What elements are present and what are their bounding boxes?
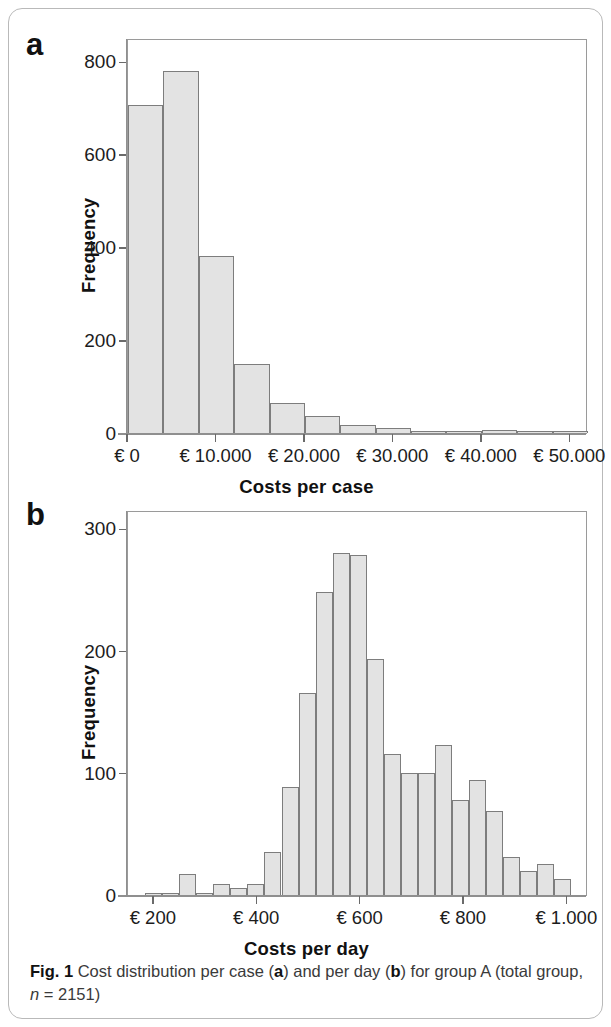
histogram-bar <box>486 811 503 895</box>
x-axis-tick <box>152 896 153 904</box>
y-axis-tick-label: 100 <box>84 763 116 785</box>
x-axis-tick-label: € 40.000 <box>445 445 517 467</box>
histogram-bar <box>340 425 375 433</box>
x-axis-line <box>118 433 586 434</box>
caption-n-symbol: n <box>30 985 39 1003</box>
y-axis-tick <box>119 773 126 774</box>
histogram-bar <box>520 871 537 895</box>
caption-text-2: ) and per day ( <box>283 962 390 980</box>
x-axis-tick-label: € 50.000 <box>533 445 605 467</box>
y-axis-tick-label: 200 <box>84 641 116 663</box>
histogram-bar <box>213 884 230 895</box>
histogram-bar <box>435 745 452 895</box>
x-axis-tick <box>480 434 481 442</box>
histogram-bar <box>163 71 198 433</box>
x-axis-tick <box>392 434 393 442</box>
histogram-bar <box>503 857 520 895</box>
panel-b-plot-area <box>127 511 587 896</box>
histogram-bar <box>282 787 299 895</box>
caption-ref-b: b <box>390 962 400 980</box>
x-axis-tick <box>303 434 304 442</box>
caption-figure-number: Fig. 1 <box>30 962 73 980</box>
x-axis-tick-label: € 600 <box>336 907 382 929</box>
panel-a-letter: a <box>26 29 43 60</box>
y-axis-tick <box>119 62 126 63</box>
y-axis-tick-label: 800 <box>84 51 116 73</box>
x-axis-tick <box>569 434 570 442</box>
x-axis-tick-label: € 20.000 <box>268 445 340 467</box>
caption-ref-a: a <box>274 962 283 980</box>
figure-frame: a Frequency 0200400600800 € 0€ 10.000€ 2… <box>8 8 603 1019</box>
histogram-bar <box>452 800 469 895</box>
panel-b-letter: b <box>26 499 44 530</box>
histogram-bar <box>234 364 269 433</box>
y-axis-tick <box>119 247 126 248</box>
y-axis-tick-label: 400 <box>84 237 116 259</box>
histogram-bar <box>376 428 411 433</box>
histogram-bar <box>316 592 333 895</box>
y-axis-line <box>126 39 127 434</box>
x-axis-tick <box>126 434 127 442</box>
histogram-bar <box>299 693 316 895</box>
histogram-bar <box>418 773 435 895</box>
panel-a-bars <box>128 40 586 433</box>
x-axis-tick-label: € 200 <box>130 907 176 929</box>
histogram-bar <box>305 416 340 433</box>
y-axis-tick-label: 0 <box>105 423 116 445</box>
y-axis-tick-label: 300 <box>84 518 116 540</box>
x-axis-tick-label: € 1.000 <box>535 907 597 929</box>
histogram-bar <box>128 105 163 433</box>
histogram-bar <box>247 884 264 895</box>
caption-text-1: Cost distribution per case ( <box>73 962 274 980</box>
x-axis-tick <box>359 896 360 904</box>
panel-a-plot-area <box>127 39 587 434</box>
x-axis-tick <box>566 896 567 904</box>
x-axis-tick-label: € 30.000 <box>356 445 428 467</box>
y-axis-tick-label: 600 <box>84 144 116 166</box>
panel-b: b Frequency 0100200300 € 200€ 400€ 600€ … <box>9 489 604 939</box>
histogram-bar <box>469 780 486 895</box>
x-axis-line <box>118 895 586 896</box>
histogram-bar <box>367 659 384 895</box>
caption-text-3: ) for group A (total group, <box>401 962 584 980</box>
x-axis-tick <box>256 896 257 904</box>
histogram-bar <box>199 256 234 433</box>
y-axis-tick-label: 200 <box>84 330 116 352</box>
histogram-bar <box>401 773 418 895</box>
panel-b-x-axis-title: Costs per day <box>9 938 604 960</box>
y-axis-tick-label: 0 <box>105 885 116 907</box>
y-axis-tick <box>119 529 126 530</box>
histogram-bar <box>384 754 401 895</box>
histogram-bar <box>537 864 554 895</box>
x-axis-tick <box>215 434 216 442</box>
y-axis-tick <box>119 651 126 652</box>
histogram-bar <box>270 403 305 433</box>
histogram-bar <box>554 879 571 895</box>
caption-n-value: = 2151) <box>39 985 100 1003</box>
x-axis-tick-label: € 800 <box>440 907 486 929</box>
histogram-bar <box>350 555 367 895</box>
y-axis-line <box>126 511 127 896</box>
panel-b-bars <box>128 512 586 895</box>
x-axis-tick-label: € 400 <box>233 907 279 929</box>
histogram-bar <box>230 888 247 895</box>
y-axis-tick <box>119 154 126 155</box>
histogram-bar <box>333 553 350 895</box>
y-axis-tick <box>119 340 126 341</box>
panel-b-y-axis-title: Frequency <box>78 664 100 759</box>
histogram-bar <box>264 852 281 895</box>
x-axis-tick <box>462 896 463 904</box>
x-axis-tick-label: € 10.000 <box>179 445 251 467</box>
histogram-bar <box>179 874 196 895</box>
x-axis-tick-label: € 0 <box>114 445 140 467</box>
panel-a: a Frequency 0200400600800 € 0€ 10.000€ 2… <box>9 17 604 487</box>
figure-caption: Fig. 1 Cost distribution per case (a) an… <box>30 960 585 1007</box>
